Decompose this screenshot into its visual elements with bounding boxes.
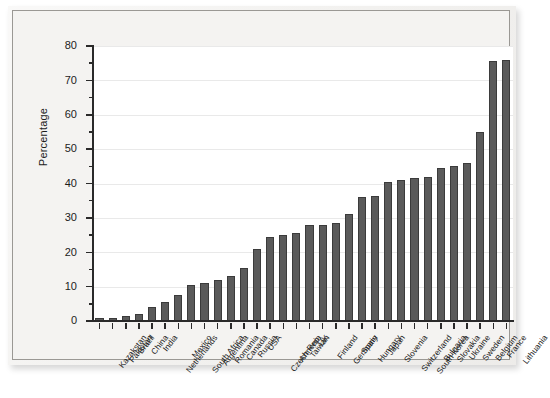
bar	[358, 197, 366, 321]
x-axis-tick-label: Spain	[359, 333, 379, 355]
bar	[161, 302, 169, 321]
bar	[214, 280, 222, 321]
x-axis-tick	[204, 323, 206, 329]
x-axis-tick	[283, 323, 285, 329]
bar	[463, 163, 471, 321]
x-axis-tick	[99, 323, 101, 329]
x-axis-tick	[151, 323, 153, 329]
x-axis-tick	[191, 323, 193, 329]
bar	[371, 196, 379, 321]
x-axis-tick	[178, 323, 180, 329]
x-axis-spine	[92, 320, 514, 322]
bar	[240, 268, 248, 321]
y-axis-tick-label: 50	[65, 142, 77, 154]
bar	[200, 283, 208, 321]
x-axis-tick	[506, 323, 508, 329]
x-axis-tick	[309, 323, 311, 329]
bar	[345, 214, 353, 321]
bar	[227, 276, 235, 321]
x-axis-tick	[112, 323, 114, 329]
x-axis-tick	[256, 323, 258, 329]
x-axis-tick-labels: KazakstanPakistanBrazilChinaIndiaNetherl…	[93, 323, 513, 393]
bar	[292, 233, 300, 321]
bar	[148, 307, 156, 321]
x-axis-tick	[125, 323, 127, 329]
bar	[410, 178, 418, 321]
x-axis-tick	[217, 323, 219, 329]
gridline	[93, 149, 513, 150]
bar	[502, 60, 510, 321]
plot-area: 01020304050607080	[93, 46, 513, 321]
bar	[266, 237, 274, 321]
x-axis-tick	[296, 323, 298, 329]
bar	[489, 61, 497, 321]
bar	[305, 225, 313, 321]
y-axis-tick-label: 70	[65, 74, 77, 86]
x-axis-tick	[374, 323, 376, 329]
x-axis-tick	[164, 323, 166, 329]
bar	[319, 225, 327, 321]
bar	[187, 285, 195, 321]
x-axis-tick	[427, 323, 429, 329]
x-axis-tick	[401, 323, 403, 329]
x-axis-tick	[361, 323, 363, 329]
y-axis-tick-label: 0	[71, 314, 77, 326]
x-axis-tick	[269, 323, 271, 329]
gridline	[93, 80, 513, 81]
x-axis-tick	[479, 323, 481, 329]
y-axis-tick-label: 20	[65, 246, 77, 258]
bar	[174, 295, 182, 321]
bar	[279, 235, 287, 321]
x-axis-tick	[440, 323, 442, 329]
bar	[424, 177, 432, 321]
bar	[476, 132, 484, 321]
x-axis-tick	[466, 323, 468, 329]
x-axis-tick	[138, 323, 140, 329]
x-axis-tick	[243, 323, 245, 329]
x-axis-tick-label: Japan	[386, 333, 407, 357]
y-axis-spine	[92, 45, 94, 322]
bar	[450, 166, 458, 321]
y-axis-tick-label: 30	[65, 211, 77, 223]
bar	[253, 249, 261, 321]
y-axis-tick-label: 40	[65, 177, 77, 189]
y-axis-tick-label: 60	[65, 108, 77, 120]
bar	[397, 180, 405, 321]
y-axis-tick-label: 80	[65, 39, 77, 51]
x-axis-tick	[493, 323, 495, 329]
gridline	[93, 115, 513, 116]
y-axis-tick-label: 10	[65, 280, 77, 292]
bar	[332, 223, 340, 321]
bar	[384, 182, 392, 321]
gridline	[93, 46, 513, 47]
x-axis-tick	[388, 323, 390, 329]
x-axis-tick	[322, 323, 324, 329]
x-axis-tick	[414, 323, 416, 329]
bar	[437, 168, 445, 321]
x-axis-tick	[335, 323, 337, 329]
x-axis-tick	[230, 323, 232, 329]
y-axis-label: Percentage	[37, 77, 49, 197]
x-axis-tick	[348, 323, 350, 329]
x-axis-tick	[453, 323, 455, 329]
figure-frame: Percentage 01020304050607080 KazakstanPa…	[12, 10, 510, 360]
